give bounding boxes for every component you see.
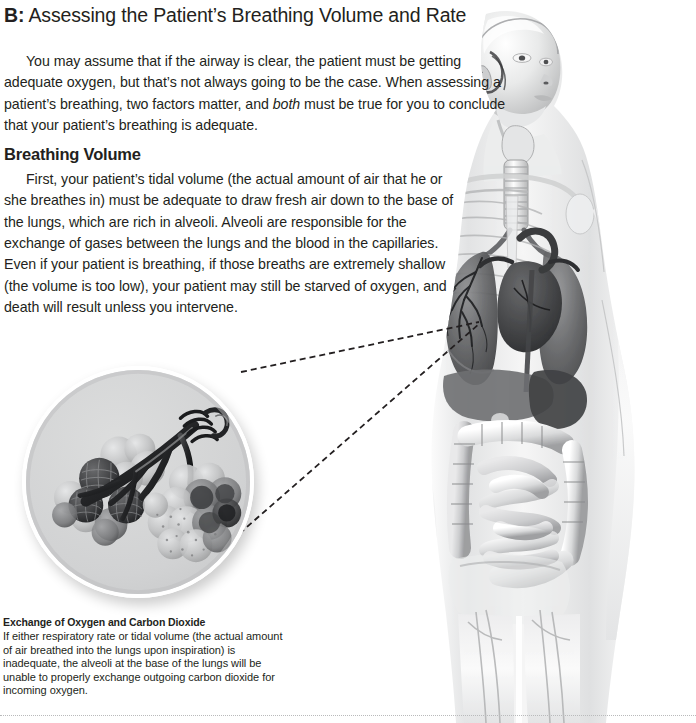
alveoli-inset bbox=[22, 366, 254, 598]
heart bbox=[480, 231, 578, 392]
legs bbox=[458, 610, 580, 723]
inset-ring bbox=[22, 366, 254, 598]
intro-paragraph: You may assume that if the airway is cle… bbox=[4, 51, 520, 136]
leader-line-top bbox=[241, 322, 479, 372]
leader-line-bottom bbox=[232, 324, 479, 540]
figure-caption: Exchange of Oxygen and Carbon Dioxide If… bbox=[3, 616, 291, 698]
abdominal-upper-organs bbox=[443, 369, 587, 428]
pelvis bbox=[449, 554, 570, 624]
caption-title: Exchange of Oxygen and Carbon Dioxide bbox=[3, 616, 291, 629]
section-label: B: bbox=[4, 4, 24, 26]
footer-rule bbox=[0, 715, 696, 717]
document-page: B: Assessing the Patient’s Breathing Vol… bbox=[0, 0, 696, 723]
subsection-heading: Breathing Volume bbox=[4, 145, 141, 164]
lungs bbox=[446, 252, 588, 385]
trachea bbox=[482, 126, 550, 258]
intestines bbox=[451, 422, 585, 579]
caption-body: If either respiratory rate or tidal volu… bbox=[3, 630, 291, 698]
intro-emphasis: both bbox=[273, 96, 300, 112]
breathing-volume-paragraph: First, your patient’s tidal volume (the … bbox=[4, 169, 456, 318]
page-title: B: Assessing the Patient’s Breathing Vol… bbox=[4, 2, 604, 28]
section-title-text: Assessing the Patient’s Breathing Volume… bbox=[28, 4, 466, 26]
